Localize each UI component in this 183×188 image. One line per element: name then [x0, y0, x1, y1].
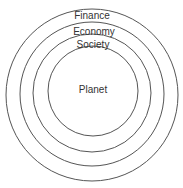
nested-circles-diagram: Finance Economy Society Planet: [0, 0, 183, 188]
label-society: Society: [77, 39, 110, 50]
label-planet: Planet: [79, 84, 108, 95]
label-finance: Finance: [74, 10, 110, 21]
label-economy: Economy: [73, 26, 115, 37]
